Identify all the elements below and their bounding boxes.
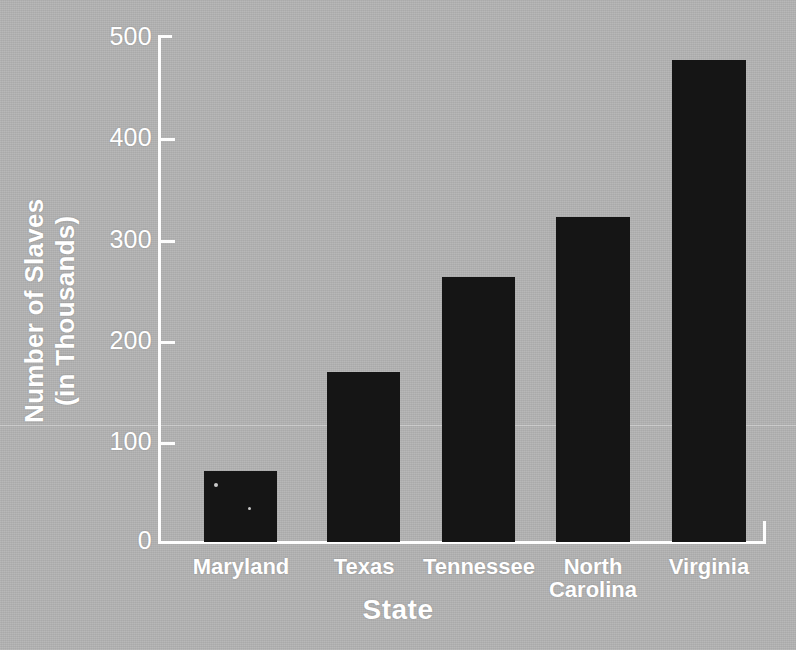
y-tick-label-100: 100 bbox=[109, 429, 152, 454]
x-tick-label-line1: Texas bbox=[334, 554, 395, 579]
y-tick-label-300: 300 bbox=[109, 227, 152, 252]
plot-area bbox=[159, 37, 765, 542]
scan-speck bbox=[248, 507, 251, 510]
x-tick-label-line1: Virginia bbox=[669, 554, 749, 579]
x-axis-title: State bbox=[0, 594, 796, 626]
y-tick-label-500: 500 bbox=[109, 24, 152, 49]
x-tick-label-line1: Maryland bbox=[193, 554, 290, 579]
y-tick-label-200: 200 bbox=[109, 328, 152, 353]
scan-speck bbox=[214, 483, 218, 487]
x-tick-label-line1: North bbox=[564, 554, 623, 579]
x-tick-label-maryland: Maryland bbox=[170, 555, 312, 578]
x-tick-label-virginia: Virginia bbox=[638, 555, 780, 578]
y-axis-title: Number of Slaves (in Thousands) bbox=[19, 151, 80, 471]
bar-virginia[interactable] bbox=[672, 60, 746, 542]
y-axis-title-line2: (in Thousands) bbox=[50, 151, 81, 471]
y-tick-label-500-wrap: 500 bbox=[60, 24, 152, 50]
x-tick-label-line1: Tennessee bbox=[423, 554, 535, 579]
y-tick-label-400-wrap: 400 bbox=[60, 125, 152, 151]
y-axis-title-line1: Number of Slaves bbox=[19, 198, 49, 422]
bar-texas[interactable] bbox=[327, 372, 400, 542]
bar-chart-figure: 500 400 300 200 100 0 Maryland Texas Ten… bbox=[0, 0, 796, 650]
bar-maryland[interactable] bbox=[204, 471, 277, 542]
y-tick-label-0-wrap: 0 bbox=[60, 528, 152, 554]
y-tick-label-400: 400 bbox=[109, 125, 152, 150]
y-tick-label-0: 0 bbox=[138, 528, 152, 553]
bar-north-carolina[interactable] bbox=[556, 217, 630, 542]
bar-tennessee[interactable] bbox=[442, 277, 515, 542]
